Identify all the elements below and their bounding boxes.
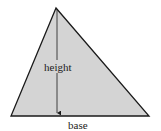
height-label: height — [44, 61, 72, 73]
triangle — [11, 8, 149, 116]
base-label: base — [68, 119, 88, 131]
triangle-diagram: height base — [0, 0, 161, 131]
